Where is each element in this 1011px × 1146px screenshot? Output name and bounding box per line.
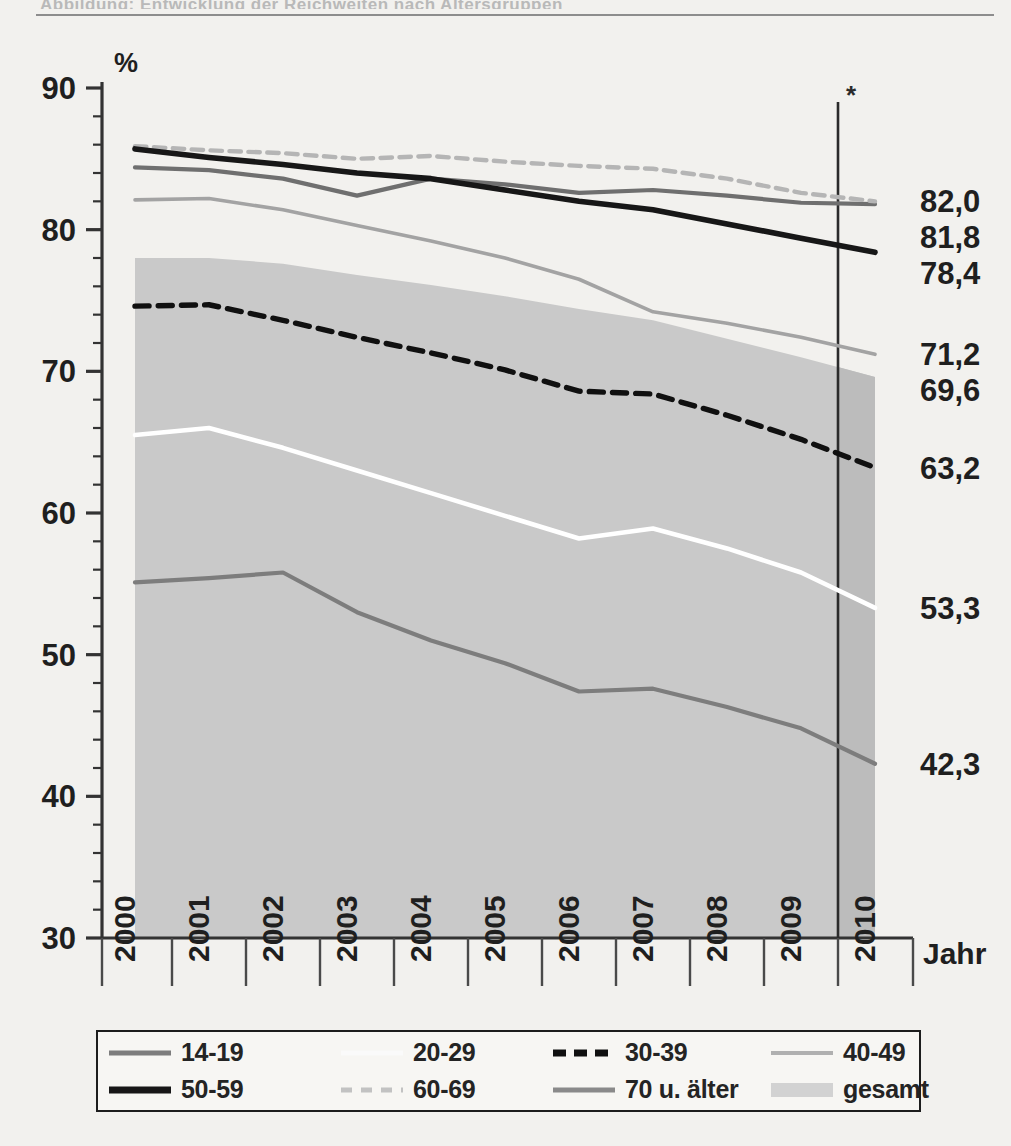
legend-item-20-29[interactable]: 20-29 [340,1038,552,1067]
y-tick-label: 80 [42,213,76,248]
x-tick-label: 2000 [108,895,141,962]
legend-item-70-und-aelter[interactable]: 70 u. älter [552,1075,770,1104]
legend-label-30-39: 30-39 [625,1038,687,1067]
legend-swatch-30-39-icon [552,1046,616,1060]
x-axis-title: Jahr [923,937,987,970]
chart-legend: 14-19 20-29 30-39 40-49 [96,1030,921,1112]
projection-asterisk: * [846,80,857,110]
x-tick-label: 2003 [330,895,363,962]
legend-item-gesamt[interactable]: gesamt [770,1075,929,1104]
y-tick-label: 30 [42,921,76,956]
series-end-label: 81,8 [920,220,980,255]
gesamt-band [135,258,875,938]
series-end-label: 63,2 [920,451,980,486]
legend-swatch-gesamt-icon [770,1083,834,1097]
legend-item-30-39[interactable]: 30-39 [552,1038,770,1067]
legend-swatch-60-69-icon [340,1083,404,1097]
legend-swatch-40-49-icon [770,1046,834,1060]
legend-label-70-und-aelter: 70 u. älter [625,1075,738,1104]
legend-swatch-20-29-icon [340,1046,404,1060]
legend-swatch-50-59-icon [108,1083,172,1097]
line-chart: 30405060708090%2000200120022003200420052… [0,26,1011,986]
x-tick-label: 2009 [774,895,807,962]
legend-item-40-49[interactable]: 40-49 [770,1038,929,1067]
legend-label-50-59: 50-59 [181,1075,243,1104]
x-tick-label: 2004 [404,895,437,962]
y-tick-label: 40 [42,779,76,814]
series-end-label: 53,3 [920,591,980,626]
series-end-label: 82,0 [920,184,980,219]
series-end-label: 69,6 [920,373,980,408]
legend-item-50-59[interactable]: 50-59 [108,1075,340,1104]
x-tick-label: 2006 [552,895,585,962]
legend-label-40-49: 40-49 [843,1038,905,1067]
series-end-label: 42,3 [920,747,980,782]
legend-label-gesamt: gesamt [843,1075,929,1104]
legend-grid: 14-19 20-29 30-39 40-49 [98,1032,919,1110]
legend-label-14-19: 14-19 [181,1038,243,1067]
x-tick-label: 2007 [626,895,659,962]
plot-area: 30405060708090%2000200120022003200420052… [0,26,1011,986]
y-tick-label: 50 [42,638,76,673]
series-end-label: 78,4 [920,256,981,291]
legend-item-14-19[interactable]: 14-19 [108,1038,340,1067]
y-tick-label: 90 [42,71,76,106]
legend-swatch-70-und-aelter-icon [552,1083,616,1097]
y-tick-label: 60 [42,496,76,531]
y-tick-label: 70 [42,354,76,389]
legend-label-20-29: 20-29 [413,1038,475,1067]
legend-item-60-69[interactable]: 60-69 [340,1075,552,1104]
x-tick-label: 2008 [700,895,733,962]
x-tick-label: 2010 [848,895,881,962]
y-axis-title: % [114,48,138,78]
x-tick-label: 2002 [256,895,289,962]
cropped-caption-remnant: Abbildung: Entwicklung der Reichweiten n… [40,0,740,9]
series-end-label: 71,2 [920,337,980,372]
figure-root: Abbildung: Entwicklung der Reichweiten n… [0,0,1011,1146]
x-tick-label: 2001 [182,895,215,962]
legend-label-60-69: 60-69 [413,1075,475,1104]
legend-swatch-14-19-icon [108,1046,172,1060]
x-tick-label: 2005 [478,895,511,962]
header-rule [36,14,994,16]
